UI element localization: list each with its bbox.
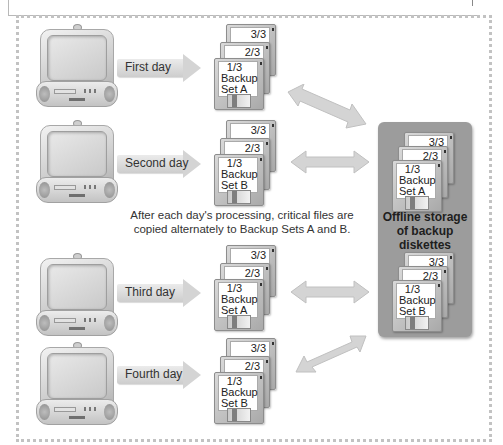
top-tick	[472, 0, 473, 6]
disk-1-of-3: 1/3BackupSet A	[214, 279, 264, 331]
disk-stack-set-b: 3/3 2/3 1/3BackupSet B	[214, 120, 280, 208]
day-arrow-fourth: Fourth day	[117, 361, 202, 389]
double-arrow-icon	[294, 330, 368, 380]
computer-icon	[36, 342, 118, 426]
day-label: Fourth day	[125, 367, 182, 381]
computer-icon	[36, 120, 118, 204]
stored-disk-stack-set-b: 3/3 2/3 1/3BackupSet B	[392, 252, 458, 340]
disk-1-of-3: 1/3BackupSet B	[214, 154, 264, 206]
disk-1-of-3: 1/3BackupASet A	[214, 58, 264, 110]
storage-title: Offline storage of backup diskettes	[378, 210, 472, 252]
double-arrow-icon	[286, 84, 368, 130]
day-arrow-first: First day	[117, 54, 202, 82]
day-arrow-second: Second day	[117, 150, 202, 178]
disk-stack-set-a: 3/3 2/3 1/3BackupASet A	[214, 24, 280, 112]
double-arrow-icon	[290, 150, 370, 174]
disk-stack-set-b: 3/3 2/3 1/3BackupSet B	[214, 338, 280, 426]
computer-icon	[36, 253, 118, 337]
day-label: Second day	[125, 156, 188, 170]
computer-icon	[36, 24, 118, 108]
disk-1-of-3: 1/3BackupSet B	[214, 372, 264, 424]
caption: After each day's processing, critical fi…	[112, 208, 372, 236]
day-label: First day	[125, 60, 171, 74]
day-arrow-third: Third day	[117, 279, 202, 307]
double-arrow-icon	[290, 280, 370, 304]
top-strip	[8, 0, 480, 16]
disk-stack-set-a: 3/3 2/3 1/3BackupSet A	[214, 245, 280, 333]
stored-disk-stack-set-a: 3/3 2/3 1/3BackupSet A	[392, 132, 458, 220]
day-label: Third day	[125, 285, 175, 299]
offline-storage-box: 3/3 2/3 1/3BackupSet A Offline storage o…	[378, 122, 472, 337]
